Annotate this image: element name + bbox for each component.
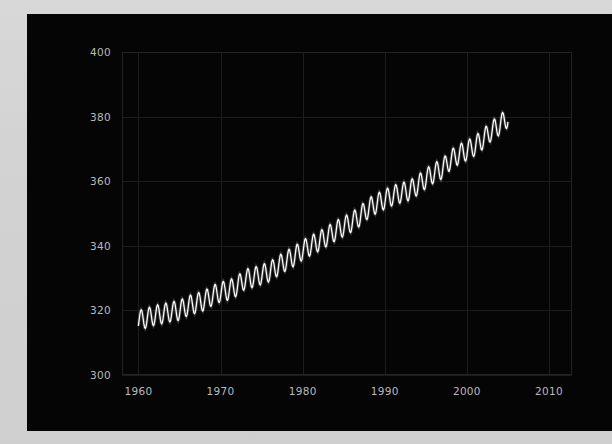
y-tick-label: 380	[90, 111, 111, 123]
page-background: 300320340360380400 196019701980199020002…	[0, 0, 612, 444]
y-tick-label: 300	[90, 369, 111, 381]
x-tick-label: 1990	[371, 385, 399, 397]
x-tick-label: 1960	[124, 385, 152, 397]
data-series-line-co2	[138, 112, 508, 328]
y-tick-label: 320	[90, 304, 111, 316]
data-series-glow	[138, 112, 508, 328]
x-tick-label: 1980	[289, 385, 317, 397]
y-tick-label: 400	[90, 46, 111, 58]
y-tick-label: 360	[90, 175, 111, 187]
y-tick-label: 340	[90, 240, 111, 252]
data-series-svg	[122, 52, 572, 375]
gridline-horizontal	[122, 375, 572, 376]
chart-figure: 300320340360380400 196019701980199020002…	[27, 14, 612, 431]
x-tick-label: 1970	[207, 385, 235, 397]
x-tick-label: 2010	[535, 385, 563, 397]
x-tick-label: 2000	[453, 385, 481, 397]
plot-area: 300320340360380400 196019701980199020002…	[122, 52, 572, 375]
